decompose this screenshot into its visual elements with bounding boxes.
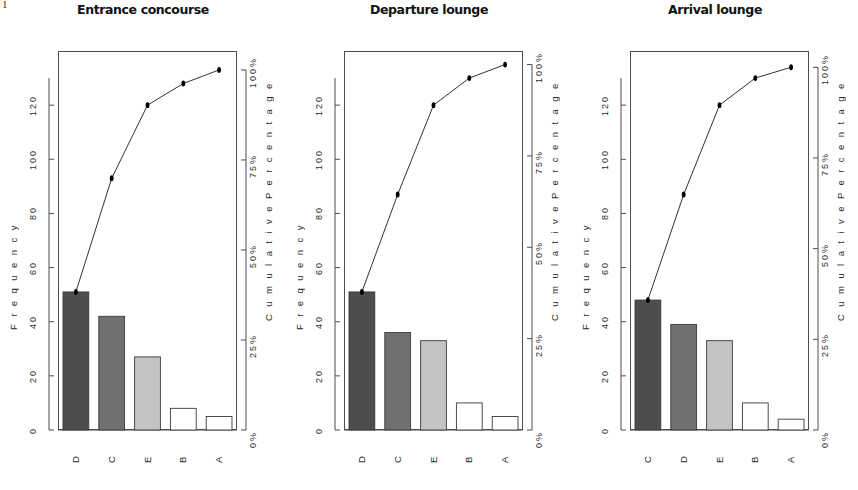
y-axis-right-tick-label: 75% <box>534 138 550 174</box>
y-axis-left-tick-label: 120 <box>314 91 330 119</box>
y-axis-left-title: F r e q u e n c y <box>580 210 591 330</box>
cumulative-point <box>789 64 793 70</box>
bar <box>170 408 196 430</box>
bar <box>778 419 804 430</box>
y-axis-left-tick-label: 80 <box>314 199 330 227</box>
x-axis-category-label: E <box>428 450 440 470</box>
x-axis-category-label: D <box>70 450 82 470</box>
y-axis-left-tick-label: 60 <box>28 254 44 282</box>
bar <box>63 292 89 430</box>
y-axis-left-title: F r e q u e n c y <box>8 210 19 330</box>
y-axis-right-title: C u m u l a t i v e P e r c e n t a g e <box>835 91 846 321</box>
y-axis-right-tick-label: 50% <box>534 229 550 265</box>
bar <box>707 341 733 430</box>
x-axis-category-label: E <box>714 450 726 470</box>
chart-panel: Arrival lounge020406080100120F r e q u e… <box>572 0 858 490</box>
cumulative-point <box>74 289 78 295</box>
cumulative-point <box>181 81 185 87</box>
cumulative-point <box>146 102 150 108</box>
y-axis-right-tick-label: 25% <box>534 321 550 357</box>
y-axis-right-tick-label: 75% <box>248 142 264 178</box>
cumulative-point <box>432 102 436 108</box>
bar <box>492 416 518 430</box>
bar <box>671 324 697 430</box>
y-axis-right-tick-label: 75% <box>820 140 836 176</box>
bar <box>99 316 125 430</box>
bar <box>206 416 232 430</box>
y-axis-right-tick-label: 25% <box>248 322 264 358</box>
y-axis-left-tick-label: 120 <box>28 91 44 119</box>
x-axis-category-label: D <box>678 450 690 470</box>
cumulative-point <box>110 175 114 181</box>
y-axis-left-tick-label: 60 <box>314 254 330 282</box>
y-axis-left-tick-label: 80 <box>600 199 616 227</box>
bar <box>742 403 768 430</box>
cumulative-point <box>467 75 471 81</box>
x-axis-category-label: E <box>142 450 154 470</box>
y-axis-right-tick-label: 100% <box>534 47 550 83</box>
x-axis-category-label: A <box>499 450 511 470</box>
y-axis-right-tick-label: 100% <box>820 49 836 85</box>
cumulative-point <box>646 297 650 303</box>
y-axis-left-tick-label: 0 <box>28 416 44 444</box>
cumulative-line <box>648 67 791 300</box>
y-axis-left-title: F r e q u e n c y <box>294 210 305 330</box>
x-axis-category-label: B <box>749 450 761 470</box>
y-axis-right-tick-label: 0% <box>820 412 836 448</box>
x-axis-category-label: B <box>177 450 189 470</box>
cumulative-point <box>217 67 221 73</box>
x-axis-category-label: B <box>463 450 475 470</box>
x-axis-category-label: C <box>392 450 404 470</box>
cumulative-point <box>718 102 722 108</box>
y-axis-left-tick-label: 20 <box>314 362 330 390</box>
bar <box>421 341 447 430</box>
y-axis-right-tick-label: 50% <box>248 232 264 268</box>
y-axis-left-tick-label: 100 <box>28 145 44 173</box>
y-axis-left-tick-label: 100 <box>600 145 616 173</box>
bar <box>385 333 411 430</box>
pareto-chart-figure: 1 Entrance concourse020406080100120F r e… <box>0 0 858 490</box>
y-axis-left-tick-label: 40 <box>28 308 44 336</box>
bar <box>135 357 161 430</box>
y-axis-left-tick-label: 60 <box>600 254 616 282</box>
x-axis-category-label: C <box>106 450 118 470</box>
y-axis-left-tick-label: 20 <box>28 362 44 390</box>
y-axis-right-tick-label: 0% <box>248 412 264 448</box>
chart-panel: Departure lounge020406080100120F r e q u… <box>286 0 572 490</box>
x-axis-category-label: C <box>642 450 654 470</box>
x-axis-category-label: A <box>213 450 225 470</box>
x-axis-category-label: A <box>785 450 797 470</box>
cumulative-line <box>362 65 505 292</box>
y-axis-left-tick-label: 40 <box>600 308 616 336</box>
bar <box>456 403 482 430</box>
y-axis-right-tick-label: 25% <box>820 321 836 357</box>
chart-panel: Entrance concourse020406080100120F r e q… <box>0 0 286 490</box>
bar <box>635 300 661 430</box>
y-axis-right-title: C u m u l a t i v e P e r c e n t a g e <box>263 91 274 321</box>
y-axis-left-tick-label: 0 <box>314 416 330 444</box>
cumulative-point <box>682 192 686 198</box>
y-axis-right-tick-label: 100% <box>248 52 264 88</box>
y-axis-right-tick-label: 0% <box>534 412 550 448</box>
cumulative-point <box>753 75 757 81</box>
y-axis-right-title: C u m u l a t i v e P e r c e n t a g e <box>549 91 560 321</box>
cumulative-point <box>503 62 507 68</box>
cumulative-point <box>360 289 364 295</box>
y-axis-left-tick-label: 0 <box>600 416 616 444</box>
y-axis-left-tick-label: 80 <box>28 199 44 227</box>
y-axis-left-tick-label: 100 <box>314 145 330 173</box>
y-axis-left-tick-label: 40 <box>314 308 330 336</box>
y-axis-left-tick-label: 20 <box>600 362 616 390</box>
y-axis-right-tick-label: 50% <box>820 231 836 267</box>
y-axis-left-tick-label: 120 <box>600 91 616 119</box>
x-axis-category-label: D <box>356 450 368 470</box>
bar <box>349 292 375 430</box>
cumulative-point <box>396 192 400 198</box>
